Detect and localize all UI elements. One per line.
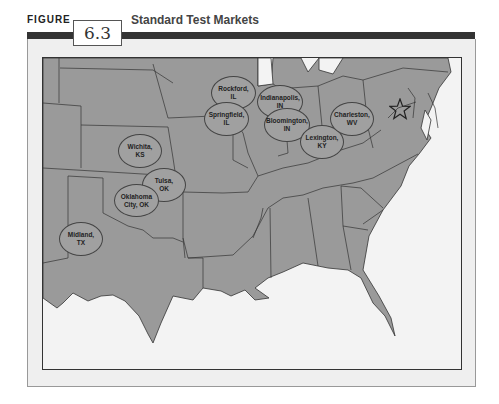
- city-oklahoma-city: Oklahoma City, OK: [114, 184, 159, 217]
- city-wichita: Wichita, KS: [118, 134, 162, 168]
- city-springfield: Springfield, IL: [204, 102, 249, 136]
- figure-number: 6.3: [73, 20, 122, 46]
- figure-label: FIGURE: [27, 14, 71, 25]
- city-charleston: Charleston, WV: [330, 102, 374, 136]
- figure-title: Standard Test Markets: [131, 13, 259, 27]
- city-midland: Midland, TX: [59, 222, 103, 256]
- map: Rockford, IL Springfield, IL Indianapoli…: [42, 57, 462, 370]
- star-icon: [389, 98, 411, 120]
